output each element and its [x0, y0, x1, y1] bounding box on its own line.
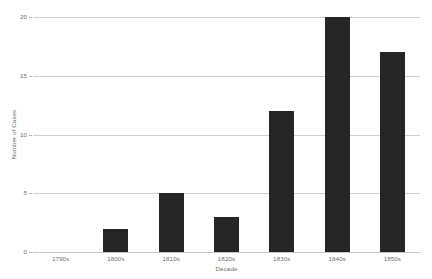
y-axis-title: Number of Cases [8, 17, 20, 252]
y-tick-label-15: 15 [20, 73, 27, 79]
gridline-5 [33, 193, 420, 194]
x-tick-label-1850s: 1850s [384, 256, 401, 262]
gridline-20 [33, 17, 420, 18]
y-tick-mark-0 [29, 252, 32, 253]
x-tick-label-1830s: 1830s [273, 256, 290, 262]
gridline-15 [33, 76, 420, 77]
x-axis-title: Decade [33, 266, 420, 272]
plot-area [33, 17, 420, 252]
x-tick-label-1790s: 1790s [52, 256, 69, 262]
y-tick-mark-10 [29, 135, 32, 136]
x-tick-label-1820s: 1820s [218, 256, 235, 262]
y-tick-label-20: 20 [20, 14, 27, 20]
bar-chart: 20 15 10 5 0 Number of Cases 1790s 1800s… [0, 0, 432, 279]
bar-1850s [380, 52, 405, 252]
y-tick-label-10: 10 [20, 132, 27, 138]
bar-1830s [269, 111, 294, 252]
y-tick-mark-15 [29, 76, 32, 77]
bar-1840s [325, 17, 350, 252]
gridline-0 [33, 252, 420, 253]
bar-1810s [159, 193, 184, 252]
x-tick-label-1810s: 1810s [163, 256, 180, 262]
x-tick-label-1800s: 1800s [107, 256, 124, 262]
x-tick-label-1840s: 1840s [328, 256, 345, 262]
y-tick-mark-5 [29, 193, 32, 194]
bar-1800s [103, 229, 128, 253]
bar-1820s [214, 217, 239, 252]
y-tick-mark-20 [29, 17, 32, 18]
y-tick-label-0: 0 [23, 249, 27, 255]
gridline-10 [33, 135, 420, 136]
y-tick-label-5: 5 [23, 190, 27, 196]
